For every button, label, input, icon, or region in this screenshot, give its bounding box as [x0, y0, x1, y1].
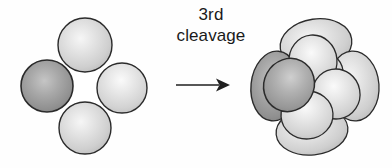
cleavage-diagram: 3rd cleavage — [0, 0, 392, 168]
four-cell-stage — [21, 18, 147, 154]
cell-top-blastomere — [58, 18, 112, 72]
stage-label-line-2: cleavage — [161, 25, 261, 46]
cell-bottom-blastomere — [59, 102, 111, 154]
eight-cell-stage — [247, 14, 381, 158]
transition-arrow — [176, 79, 230, 92]
stage-label: 3rd cleavage — [161, 4, 261, 46]
cell-right-blastomere — [97, 63, 147, 113]
cell-left-blastomere — [21, 60, 73, 112]
stage-label-line-1: 3rd — [161, 4, 261, 25]
